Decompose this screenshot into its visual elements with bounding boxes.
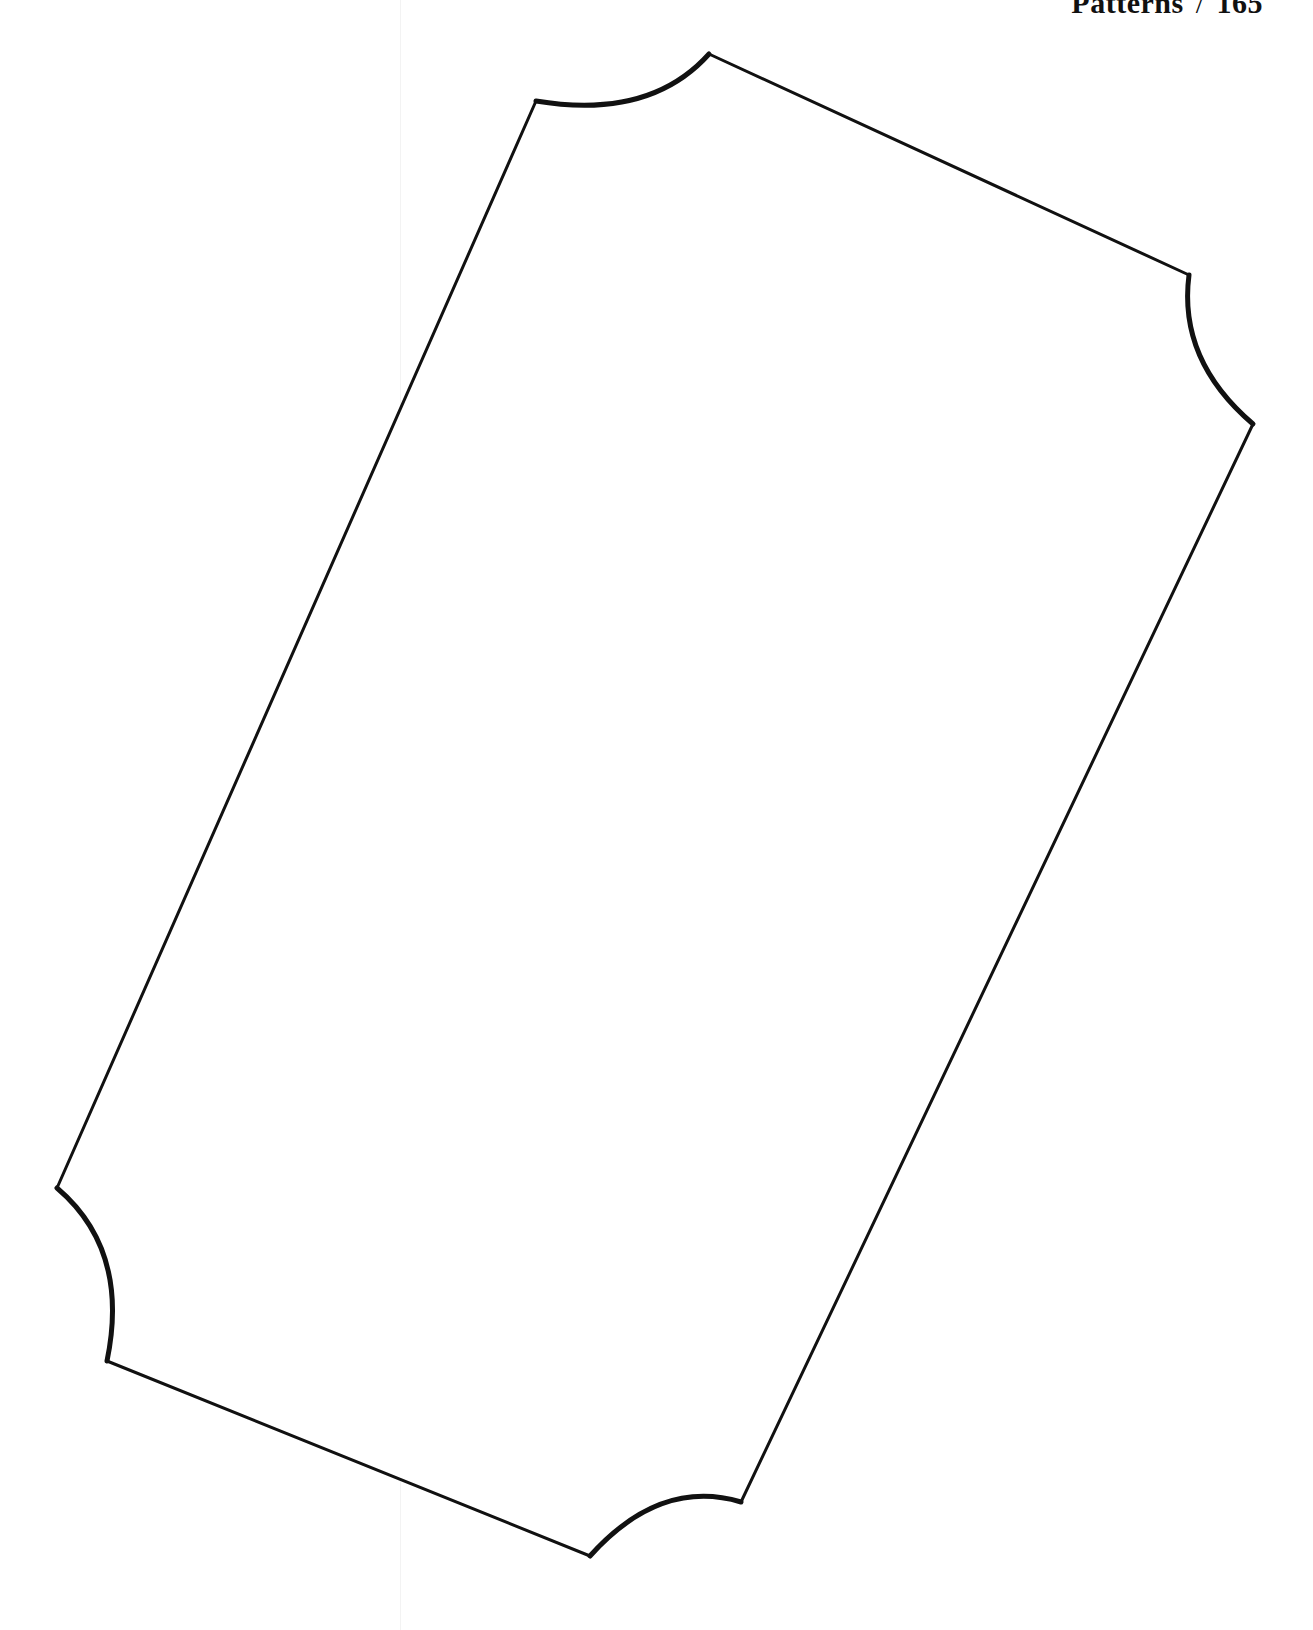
ticket-shape-outline <box>57 54 1253 1556</box>
pattern-outline <box>0 0 1313 1630</box>
